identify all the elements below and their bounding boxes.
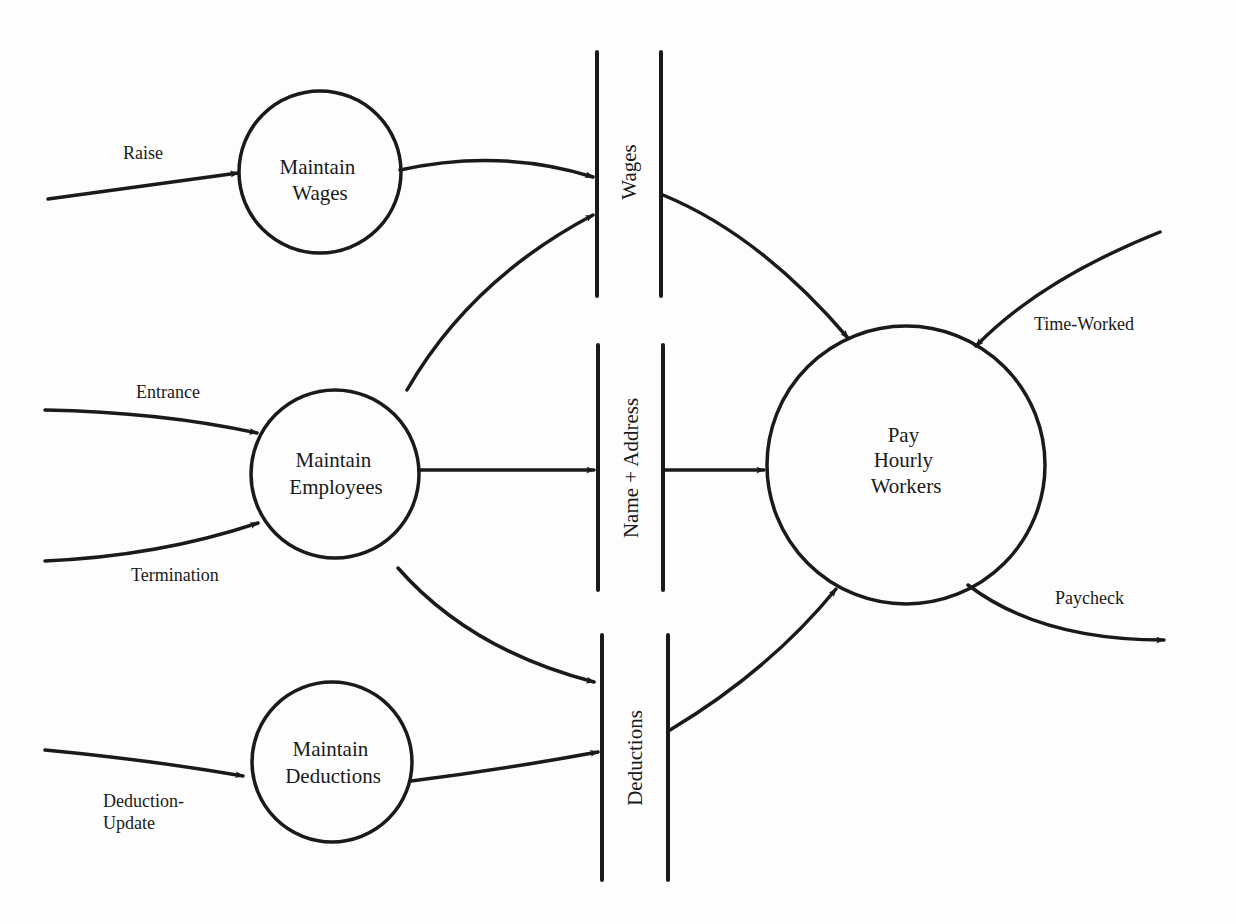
flow-arrows: [45, 161, 1164, 781]
flow-employees-to-deductions-arrow: [398, 568, 594, 682]
flow-entrance-arrow: [45, 410, 257, 433]
process-label-maintain-deductions: Maintain Deductions: [285, 737, 381, 788]
process-maintain-deductions: [252, 682, 412, 842]
flow-employees-to-wages-arrow: [407, 215, 593, 390]
flow-wages-to-pay-arrow: [663, 195, 848, 338]
process-label-maintain-wages: Maintain Wages: [279, 155, 360, 205]
flow-label-paycheck: Paycheck: [1055, 588, 1124, 608]
flow-label-deduction-update: Deduction- Update: [103, 791, 188, 833]
data-flow-diagram: Maintain Wages Maintain Employees Mainta…: [0, 0, 1236, 924]
flow-wages-out-arrow: [400, 161, 593, 177]
store-label-deductions: Deductions: [623, 710, 647, 806]
flow-label-raise: Raise: [123, 143, 163, 163]
flow-label-time-worked: Time-Worked: [1034, 314, 1134, 334]
flow-deduction-update-arrow: [45, 750, 243, 776]
flow-raise-arrow: [48, 173, 238, 199]
flow-termination-arrow: [45, 523, 258, 561]
store-label-name-address: Name + Address: [619, 398, 643, 538]
process-label-maintain-employees: Maintain Employees: [289, 448, 382, 499]
process-label-pay-hourly-workers: Pay Hourly Workers: [871, 423, 942, 498]
store-label-wages: Wages: [617, 144, 641, 199]
flow-deductions-to-pay-arrow: [670, 589, 836, 730]
flow-deductions-in-arrow: [411, 752, 598, 781]
flow-label-termination: Termination: [131, 565, 219, 585]
process-maintain-employees: [251, 390, 419, 558]
flow-label-entrance: Entrance: [136, 382, 200, 402]
